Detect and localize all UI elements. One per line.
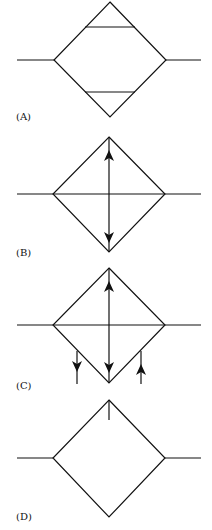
panel-label-c: (C) — [16, 380, 32, 391]
diagram-figure: (A) (B) (C) (D) — [0, 0, 212, 530]
diamond — [54, 2, 166, 117]
panel-label-a: (A) — [16, 111, 31, 122]
panel-label-d: (D) — [16, 511, 32, 522]
panel-label-b: (B) — [16, 247, 31, 258]
panel-b: (B) — [16, 137, 201, 258]
panel-a: (A) — [16, 2, 201, 122]
panel-c: (C) — [16, 268, 201, 391]
panel-d: (D) — [16, 400, 201, 522]
